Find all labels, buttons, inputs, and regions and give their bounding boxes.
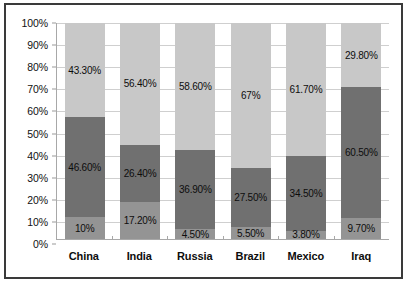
bar-segment-value-label: 34.50%: [290, 188, 323, 199]
stacked-bar[interactable]: 61.70%34.50%3.80%: [286, 23, 326, 239]
bar-segment-middle-segment[interactable]: 60.50%: [341, 87, 381, 218]
bar-segment-bottom-segment[interactable]: 4.50%: [175, 229, 215, 239]
x-axis-category-china: China: [56, 245, 112, 267]
stacked-bar[interactable]: 56.40%26.40%17.20%: [120, 23, 160, 239]
bar-segment-bottom-segment[interactable]: 17.20%: [120, 202, 160, 239]
bar-segment-value-label: 26.40%: [124, 168, 157, 179]
bar-segment-top-segment[interactable]: 61.70%: [286, 23, 326, 156]
bar-segment-value-label: 43.30%: [68, 65, 101, 76]
bar-segment-top-segment[interactable]: 67%: [231, 23, 271, 168]
bar-slot: 61.70%34.50%3.80%: [278, 23, 333, 239]
x-axis-tick-mark: [167, 236, 168, 240]
x-axis-category-mexico: Mexico: [278, 245, 334, 267]
stacked-bar[interactable]: 67%27.50%5.50%: [231, 23, 271, 239]
y-axis-tick-label: 40%: [27, 150, 48, 162]
bar-segment-value-label: 67%: [241, 90, 260, 101]
x-axis-tick-mark: [278, 236, 279, 240]
x-axis-tick-mark: [334, 236, 335, 240]
y-axis-tick-label: 0%: [33, 238, 48, 250]
bar-segment-value-label: 4.50%: [182, 229, 209, 240]
bar-segment-value-label: 46.60%: [68, 162, 101, 173]
x-axis-category-iraq: Iraq: [334, 245, 390, 267]
bar-slot: 58.60%36.90%4.50%: [168, 23, 223, 239]
y-axis-tick-label: 90%: [27, 39, 48, 51]
bar-segment-value-label: 5.50%: [237, 228, 264, 239]
bar-segment-bottom-segment[interactable]: 3.80%: [286, 231, 326, 239]
y-axis-tick-label: 30%: [27, 172, 48, 184]
bar-segment-bottom-segment[interactable]: 9.70%: [341, 218, 381, 239]
y-axis-tick-label: 10%: [27, 216, 48, 228]
bar-segment-value-label: 17.20%: [124, 215, 157, 226]
x-axis-tick-mark: [112, 236, 113, 240]
bar-segment-value-label: 61.70%: [290, 84, 323, 95]
bar-segment-value-label: 58.60%: [179, 81, 212, 92]
y-axis-tick-label: 50%: [27, 128, 48, 140]
x-axis-category-brazil: Brazil: [223, 245, 279, 267]
y-axis-tick-label: 70%: [27, 83, 48, 95]
bar-segment-top-segment[interactable]: 56.40%: [120, 23, 160, 145]
bar-segment-top-segment[interactable]: 58.60%: [175, 23, 215, 150]
y-axis-tick-label: 60%: [27, 105, 48, 117]
x-axis-tick-mark: [223, 236, 224, 240]
x-axis-category-russia: Russia: [167, 245, 223, 267]
bar-segment-value-label: 56.40%: [124, 78, 157, 89]
plot-area: 43.30%46.60%10%56.40%26.40%17.20%58.60%3…: [56, 23, 389, 240]
bar-segment-value-label: 27.50%: [234, 192, 267, 203]
chart-plot-wrapper: 0%10%20%30%40%50%60%70%80%90%100% 43.30%…: [6, 5, 401, 277]
stacked-bar[interactable]: 29.80%60.50%9.70%: [341, 23, 381, 239]
bar-segment-middle-segment[interactable]: 27.50%: [231, 168, 271, 227]
bar-segment-bottom-segment[interactable]: 5.50%: [231, 227, 271, 239]
chart-frame: 0%10%20%30%40%50%60%70%80%90%100% 43.30%…: [4, 3, 403, 279]
bar-segment-top-segment[interactable]: 43.30%: [65, 23, 105, 117]
bar-segment-value-label: 3.80%: [292, 229, 319, 240]
stacked-bar[interactable]: 43.30%46.60%10%: [65, 23, 105, 239]
bar-slot: 43.30%46.60%10%: [57, 23, 112, 239]
bar-segment-bottom-segment[interactable]: 10%: [65, 217, 105, 239]
bar-segment-middle-segment[interactable]: 46.60%: [65, 117, 105, 218]
bar-slot: 56.40%26.40%17.20%: [112, 23, 167, 239]
y-axis-tick-label: 100%: [22, 17, 48, 29]
stacked-bar[interactable]: 58.60%36.90%4.50%: [175, 23, 215, 239]
y-axis-tick-label: 20%: [27, 194, 48, 206]
bar-segment-middle-segment[interactable]: 34.50%: [286, 156, 326, 231]
bar-segment-middle-segment[interactable]: 36.90%: [175, 150, 215, 230]
bar-segment-value-label: 36.90%: [179, 184, 212, 195]
x-axis: ChinaIndiaRussiaBrazilMexicoIraq: [56, 245, 389, 267]
bar-segment-value-label: 60.50%: [345, 147, 378, 158]
bar-series-group: 43.30%46.60%10%56.40%26.40%17.20%58.60%3…: [57, 23, 389, 239]
y-axis: 0%10%20%30%40%50%60%70%80%90%100%: [6, 5, 52, 277]
bar-segment-middle-segment[interactable]: 26.40%: [120, 145, 160, 202]
bar-slot: 29.80%60.50%9.70%: [334, 23, 389, 239]
bar-slot: 67%27.50%5.50%: [223, 23, 278, 239]
bar-segment-top-segment[interactable]: 29.80%: [341, 23, 381, 87]
x-axis-category-india: India: [112, 245, 168, 267]
bar-segment-value-label: 29.80%: [345, 50, 378, 61]
bar-segment-value-label: 10%: [75, 223, 94, 234]
y-axis-tick-label: 80%: [27, 61, 48, 73]
bar-segment-value-label: 9.70%: [348, 223, 375, 234]
